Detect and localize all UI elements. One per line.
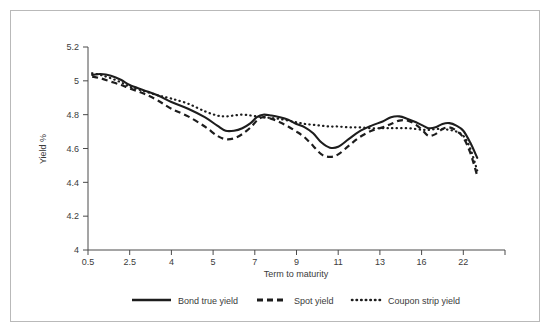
y-tick-label: 4.8 [66, 110, 79, 120]
y-axis-ticks [83, 47, 88, 250]
y-axis-tick-labels: 44.24.44.64.855.2 [66, 42, 79, 255]
legend-label-spot-yield: Spot yield [294, 296, 334, 306]
series-lines [92, 73, 477, 175]
x-axis-tick-labels: 0.52.5457911131622 [82, 257, 469, 267]
x-tick-label: 22 [458, 257, 468, 267]
x-tick-label: 5 [211, 257, 216, 267]
line-chart: 44.24.44.64.855.2 0.52.5457911131622 Ter… [0, 0, 556, 334]
series-line-bond-true-yield [92, 74, 477, 158]
chart-legend: Bond true yield Spot yield Coupon strip … [132, 296, 460, 306]
y-tick-label: 4.2 [66, 211, 79, 221]
x-tick-label: 4 [169, 257, 174, 267]
x-tick-label: 7 [252, 257, 257, 267]
chart-figure: 44.24.44.64.855.2 0.52.5457911131622 Ter… [0, 0, 556, 334]
x-tick-label: 9 [294, 257, 299, 267]
x-axis-ticks [88, 250, 505, 255]
y-tick-label: 4 [74, 245, 79, 255]
legend-label-bond-true-yield: Bond true yield [178, 296, 238, 306]
x-tick-label: 13 [375, 257, 385, 267]
y-tick-label: 4.4 [66, 178, 79, 188]
y-tick-label: 5 [74, 76, 79, 86]
x-tick-label: 16 [417, 257, 427, 267]
y-axis-title: Yield % [38, 134, 48, 164]
x-tick-label: 0.5 [82, 257, 95, 267]
x-tick-label: 11 [334, 257, 343, 267]
legend-label-coupon-strip-yield: Coupon strip yield [388, 296, 460, 306]
y-tick-label: 5.2 [66, 42, 79, 52]
series-line-coupon-strip-yield [92, 73, 477, 170]
y-tick-label: 4.6 [66, 144, 79, 154]
x-axis-title: Term to maturity [264, 269, 329, 279]
x-tick-label: 2.5 [123, 257, 136, 267]
